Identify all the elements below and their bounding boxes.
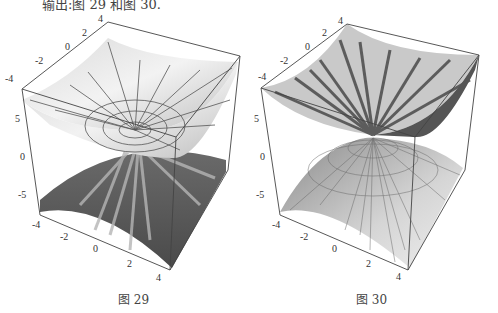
tick-back-2: 2	[322, 27, 327, 38]
tick-back-neg2: -2	[280, 55, 288, 66]
tick-back-0: 0	[305, 41, 310, 52]
tick-front-2: 2	[366, 258, 371, 269]
tick-back-4: 4	[98, 13, 103, 24]
figure-29-caption: 图 29	[118, 290, 149, 307]
tick-front-0: 0	[332, 243, 337, 254]
figure-30-plot: -4 -2 0 2 4 5 0 -5 -4 -2 0 2 4	[250, 0, 498, 290]
tick-back-neg2: -2	[35, 55, 43, 66]
tick-front-neg2: -2	[60, 231, 68, 242]
tick-front-neg4: -4	[272, 219, 280, 230]
tick-front-2: 2	[127, 258, 132, 269]
tick-back-2: 2	[82, 27, 87, 38]
tick-front-0: 0	[93, 243, 98, 254]
tick-vert-neg5: -5	[256, 189, 264, 200]
tick-vert-0: 0	[20, 151, 25, 162]
tick-front-4: 4	[156, 272, 161, 283]
tick-vert-5: 5	[254, 113, 259, 124]
tick-front-neg4: -4	[32, 219, 40, 230]
tick-back-neg4: -4	[5, 73, 13, 84]
tick-front-4: 4	[396, 271, 401, 282]
tick-back-0: 0	[65, 41, 70, 52]
tick-front-neg2: -2	[300, 231, 308, 242]
tick-vert-neg5: -5	[18, 189, 26, 200]
tick-vert-0: 0	[260, 151, 265, 162]
tick-back-neg4: -4	[258, 71, 266, 82]
figure-29-plot: -4 -2 0 2 4 5 0 -5 -4 -2 0 2 4	[0, 0, 250, 290]
tick-vert-5: 5	[15, 113, 20, 124]
figure-30-caption: 图 30	[356, 290, 387, 307]
tick-back-4: 4	[338, 15, 343, 26]
